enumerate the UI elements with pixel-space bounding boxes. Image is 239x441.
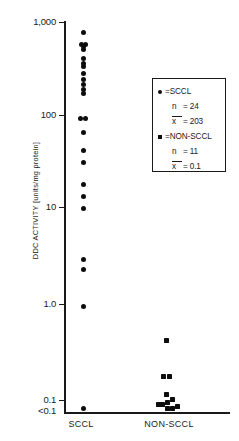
legend-entry-sccl: =SCCL	[158, 84, 221, 99]
legend-n-value-sccl: 24	[190, 102, 199, 111]
data-point	[83, 116, 88, 121]
y-tick-label-1: 1.0	[8, 298, 56, 309]
legend-box: =SCCL n = 24 x = 203 =NON-SCCL n = 11 x …	[152, 78, 226, 172]
data-point	[81, 30, 86, 35]
y-tick-1	[59, 304, 65, 305]
data-point	[165, 406, 170, 411]
data-point	[81, 64, 86, 69]
legend-mean-symbol: x	[172, 162, 183, 171]
y-axis-line	[64, 21, 66, 413]
data-point	[167, 374, 172, 379]
data-point	[78, 116, 83, 121]
y-tick-label-below-0.1: <0.1	[8, 405, 56, 416]
legend-entry-non-sccl: =NON-SCCL	[158, 129, 221, 144]
data-point	[81, 148, 86, 153]
data-point	[81, 257, 86, 262]
legend-stat-non-sccl-mean: x = 0.1	[158, 159, 221, 174]
y-tick-label-0.1: 0.1	[8, 394, 56, 405]
data-point	[81, 71, 86, 76]
data-point	[164, 392, 169, 397]
legend-n-value-non-sccl: 11	[190, 147, 198, 156]
data-point	[81, 194, 86, 199]
legend-label-non-sccl: =NON-SCCL	[165, 132, 212, 141]
x-axis-line	[64, 412, 230, 414]
legend-mean-symbol: x	[172, 117, 183, 126]
legend-mean-value-sccl: 203	[190, 117, 203, 126]
data-point	[81, 267, 86, 272]
data-point	[81, 77, 86, 82]
data-point	[164, 338, 169, 343]
legend-mean-equals: =	[183, 117, 188, 126]
x-axis-label-non-sccl: NON-SCCL	[135, 419, 203, 429]
legend-stat-sccl-n: n = 24	[158, 99, 221, 114]
data-point	[165, 400, 170, 405]
data-point	[81, 47, 86, 52]
legend-n-equals: =	[183, 147, 188, 156]
x-axis-label-sccl: SCCL	[58, 419, 104, 429]
data-point	[175, 404, 180, 409]
legend-mean-value-non-sccl: 0.1	[190, 162, 201, 171]
y-tick-label-1000: 1,000	[8, 16, 56, 27]
data-point	[81, 406, 86, 411]
data-point	[81, 130, 86, 135]
data-point	[81, 304, 86, 309]
data-point	[161, 374, 166, 379]
data-point	[170, 397, 175, 402]
legend-mean-equals: =	[183, 162, 188, 171]
legend-n-symbol: n	[172, 147, 183, 156]
legend-stat-non-sccl-n: n = 11	[158, 144, 221, 159]
y-tick-0.1	[59, 400, 65, 401]
data-point	[81, 182, 86, 187]
legend-n-equals: =	[183, 102, 188, 111]
square-marker-icon	[158, 135, 162, 139]
scatter-plot-figure: 1,000 100 10 1.0 0.1 <0.1 DDC ACTIVITY […	[0, 0, 239, 441]
y-tick-10	[59, 207, 65, 208]
legend-stat-sccl-mean: x = 203	[158, 114, 221, 129]
legend-label-sccl: =SCCL	[165, 87, 191, 96]
y-axis-title: DDC ACTIVITY [units/mg protein]	[31, 116, 40, 286]
data-point	[81, 91, 86, 96]
circle-marker-icon	[158, 90, 162, 94]
data-point	[81, 160, 86, 165]
y-tick-100	[59, 115, 65, 116]
legend-n-symbol: n	[172, 102, 183, 111]
data-point	[81, 206, 86, 211]
data-point	[170, 406, 175, 411]
y-tick-1000	[59, 22, 65, 23]
